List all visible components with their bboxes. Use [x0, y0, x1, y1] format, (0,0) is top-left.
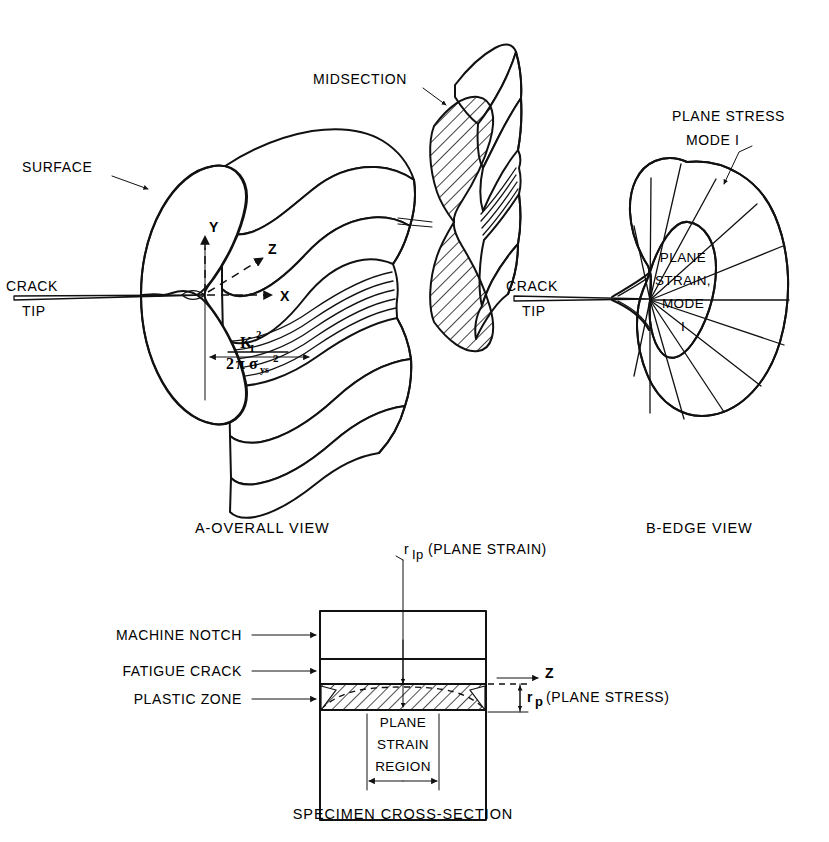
formula-K-subscript: I	[250, 342, 254, 354]
machine-notch-label: MACHINE NOTCH	[116, 627, 242, 643]
plane-strain-line4: I	[681, 319, 685, 334]
r-plane-strain-symbol: r	[404, 541, 409, 557]
y-axis-label: Y	[209, 219, 219, 235]
z-axis-label: Z	[268, 241, 277, 257]
formula-pi: π	[236, 355, 245, 372]
r-plane-stress-symbol: r	[527, 689, 533, 705]
r-plane-strain-note: (PLANE STRAIN)	[428, 541, 547, 557]
r-plane-strain-subscript: Ip	[412, 547, 424, 562]
formula-K-superscript: 2	[256, 328, 262, 340]
formula-sigma-superscript: 2	[273, 352, 279, 364]
z-axis-label-c: Z	[545, 665, 554, 681]
formula-sigma: σ	[249, 355, 258, 372]
plane-stress-line1: PLANE STRESS	[672, 108, 785, 124]
plastic-zone-figure: Y X Z K I 2 2 π σ ys 2	[0, 0, 829, 842]
formula-two: 2	[226, 355, 234, 372]
panel-a-caption: A-OVERALL VIEW	[195, 520, 330, 536]
surface-label: SURFACE	[22, 159, 92, 175]
formula-sigma-subscript: ys	[260, 364, 269, 375]
plane-strain-region-line3: REGION	[375, 759, 431, 774]
panel-c-caption: SPECIMEN CROSS-SECTION	[293, 806, 513, 822]
crack-tip-line1-b: CRACK	[506, 278, 558, 294]
figure-root: Y X Z K I 2 2 π σ ys 2	[0, 0, 829, 842]
plane-strain-line1: PLANE	[660, 250, 706, 265]
plane-strain-line2: STRAIN,	[655, 273, 711, 288]
crack-tip-line2-a: TIP	[22, 303, 46, 319]
plane-strain-region-line2: STRAIN	[377, 737, 429, 752]
panel-b-caption: B-EDGE VIEW	[646, 520, 753, 536]
r-plane-stress-note: (PLANE STRESS)	[546, 689, 670, 705]
plane-strain-region-line1: PLANE	[380, 715, 426, 730]
plastic-zone-label: PLASTIC ZONE	[134, 691, 242, 707]
fatigue-crack-label: FATIGUE CRACK	[122, 663, 242, 679]
plane-stress-line2: MODE I	[686, 132, 739, 148]
midsection-label: MIDSECTION	[313, 71, 407, 87]
x-axis-label: X	[280, 288, 290, 304]
crack-tip-line2-b: TIP	[522, 303, 546, 319]
plane-strain-line3: MODE	[662, 296, 704, 311]
r-plane-stress-subscript: p	[535, 694, 543, 709]
crack-tip-line1-a: CRACK	[6, 278, 58, 294]
